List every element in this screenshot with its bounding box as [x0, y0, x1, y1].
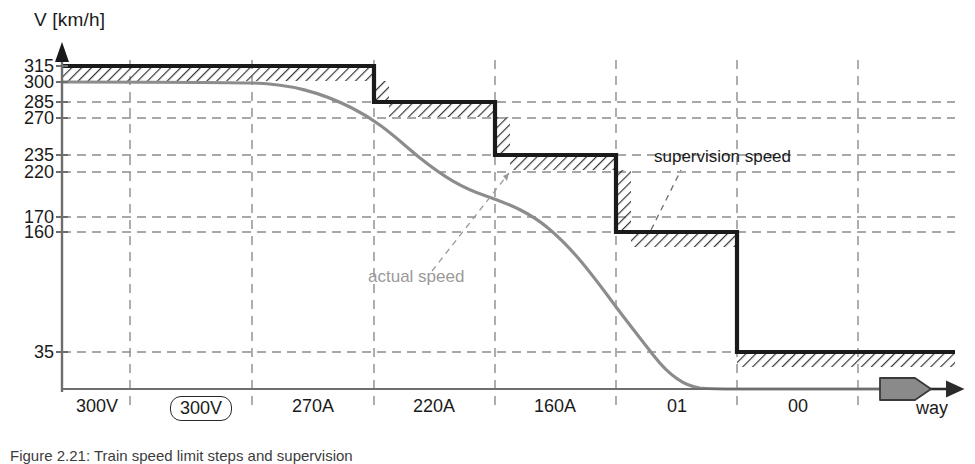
x-category-00: 00 [765, 396, 831, 416]
y-tick-160: 160 [8, 223, 54, 241]
train-marker-icon [880, 378, 931, 400]
x-axis-title: way [916, 398, 948, 419]
x-category-270a: 270A [280, 396, 346, 416]
supervision-speed-annotation: supervision speed [654, 147, 791, 167]
supervision-hatched-band [62, 66, 955, 367]
x-category-220a: 220A [401, 396, 467, 416]
x-category-300v-active: 300V [154, 396, 248, 421]
y-tick-270: 270 [8, 109, 54, 127]
y-tick-35: 35 [8, 343, 54, 361]
x-category-01: 01 [644, 396, 710, 416]
y-tick-300: 300 [8, 73, 54, 91]
actual-leader-line [432, 173, 509, 271]
x-category-160a: 160A [522, 396, 588, 416]
x-category-300v-active-label: 300V [170, 396, 232, 421]
supervision-speed-line [62, 66, 955, 352]
actual-speed-annotation: actual speed [368, 267, 464, 287]
y-tick-220: 220 [8, 163, 54, 181]
supervision-leader-line [651, 170, 681, 230]
figure-caption: Figure 2.21: Train speed limit steps and… [10, 447, 353, 464]
x-category-300v: 300V [64, 396, 130, 416]
y-axis-title: V [km/h] [34, 9, 105, 31]
y-axis [55, 42, 69, 392]
